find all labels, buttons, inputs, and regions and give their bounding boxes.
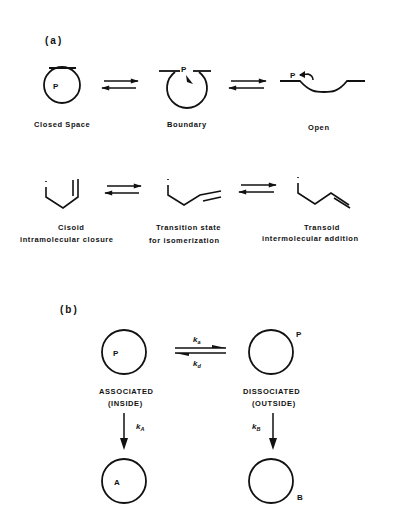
particle-label: P [113,349,119,358]
panel-a-label: (a) [45,35,63,46]
figure-canvas: (a) P Closed Space P Boundary P Open Cis [0,0,394,520]
boundary-label: Boundary [167,120,207,129]
rate-kB-label: kB [252,422,260,432]
product-a-state: A [102,459,146,503]
closed-space-diagram: P [44,67,80,103]
dissociated-label: DISSOCIATED [243,387,300,396]
inside-label: (INSIDE) [108,399,143,408]
equilibrium-arrows-icon [102,81,138,88]
outside-label: (OUTSIDE) [252,399,296,408]
associated-state: P [102,330,146,374]
cisoid-description: intramolecular closure [20,235,114,244]
boundary-diagram: P [159,65,211,108]
dissociated-state: P [249,330,302,374]
rate-ka-label: ka [193,335,201,345]
transition-state-description: for isomerization [149,236,220,245]
equilibrium-arrows-icon [239,185,276,192]
open-diagram: P [280,71,365,92]
rate-kA-label: kA [136,422,144,432]
particle-label: P [290,71,296,80]
open-label: Open [308,123,330,132]
closed-space-label: Closed Space [34,120,90,129]
transition-state-label: Transition state [156,223,221,232]
transition-state-structure [168,179,221,205]
equilibrium-arrows-icon [229,81,266,88]
cisoid-structure [46,179,78,208]
equilibrium-arrows-icon [105,186,141,193]
particle-label: P [53,82,59,91]
ka-arrow-icon [120,413,128,450]
product-b-state: B [249,459,303,503]
associated-label: ASSOCIATED [99,387,154,396]
cisoid-label: Cisoid [58,223,85,232]
ka-kd-equilibrium-arrows [175,345,226,356]
particle-label: P [181,65,187,74]
transoid-label: Transoid [304,223,340,232]
kb-arrow-icon [269,413,277,450]
rate-kd-label: kd [193,359,201,369]
product-b-label: B [297,493,303,502]
transoid-description: intermolecular addition [262,234,359,243]
panel-b-label: (b) [60,304,79,315]
transoid-structure [298,177,350,208]
particle-label: P [296,330,302,339]
product-a-label: A [114,478,120,487]
